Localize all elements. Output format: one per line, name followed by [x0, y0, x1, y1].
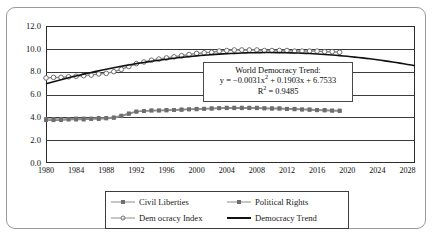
- data-point-marker: [225, 106, 229, 110]
- data-point-marker: [96, 72, 101, 77]
- data-point-marker: [315, 49, 320, 54]
- legend-item[interactable]: Political Rights: [227, 198, 343, 207]
- data-point-marker: [293, 107, 297, 111]
- trendline-equation-annotation: World Democracy Trend: y = −0.0031x2 + 0…: [203, 62, 353, 102]
- data-point-marker: [74, 117, 78, 121]
- data-point-marker: [232, 106, 236, 110]
- x-tick-label: 1992: [128, 167, 144, 175]
- data-point-marker: [44, 76, 49, 81]
- data-point-marker: [239, 48, 244, 53]
- legend-item[interactable]: Democracy Trend: [227, 214, 343, 223]
- data-point-marker: [224, 48, 229, 53]
- x-tick-label: 2012: [279, 167, 295, 175]
- data-point-marker: [255, 48, 260, 53]
- annotation-equation: y = −0.0031x2 + 0.1903x + 6.7533: [208, 76, 348, 86]
- data-point-marker: [217, 49, 222, 54]
- data-point-marker: [52, 117, 56, 121]
- data-point-marker: [195, 107, 199, 111]
- data-point-marker: [180, 108, 184, 112]
- data-point-marker: [142, 109, 146, 113]
- data-point-marker: [51, 75, 56, 80]
- x-tick-label: 1988: [98, 167, 114, 175]
- data-point-marker: [202, 107, 206, 111]
- data-point-marker: [44, 117, 48, 121]
- data-point-marker: [165, 109, 169, 113]
- data-point-marker: [82, 117, 86, 121]
- data-point-marker: [247, 106, 251, 110]
- legend-key-circle-marker-line-icon: [111, 214, 135, 223]
- data-point-marker: [308, 108, 312, 112]
- data-point-marker: [119, 114, 123, 118]
- x-tick-label: 1984: [68, 167, 84, 175]
- x-tick-label: 2008: [249, 167, 265, 175]
- data-point-marker: [157, 109, 161, 113]
- y-tick-label: 8.0: [30, 67, 41, 76]
- data-point-marker: [337, 50, 342, 55]
- legend-item[interactable]: Civil Liberties: [111, 198, 227, 207]
- legend-key-square-marker-line-icon: [111, 198, 135, 207]
- y-tick-label: 4.0: [30, 113, 41, 122]
- legend-item[interactable]: Dem ocracy Index: [111, 214, 227, 223]
- annotation-r-squared: R2 = 0.9485: [208, 87, 348, 97]
- legend-label: Political Rights: [255, 198, 308, 207]
- x-tick-label: 1996: [158, 167, 174, 175]
- data-point-marker: [322, 49, 327, 54]
- y-tick-label: 2.0: [30, 136, 41, 145]
- data-point-marker: [111, 69, 116, 74]
- x-tick-label: 2000: [189, 167, 205, 175]
- data-point-marker: [330, 109, 334, 113]
- x-tick-label: 2016: [309, 167, 325, 175]
- x-tick-label: 2024: [369, 167, 385, 175]
- data-point-marker: [59, 117, 63, 121]
- data-point-marker: [104, 71, 109, 76]
- legend-label: Dem ocracy Index: [139, 214, 202, 223]
- annotation-title: World Democracy Trend:: [208, 66, 348, 76]
- data-point-marker: [240, 106, 244, 110]
- data-point-marker: [330, 49, 335, 54]
- data-point-marker: [262, 107, 266, 111]
- x-tick-label: 2020: [339, 167, 355, 175]
- data-point-marker: [210, 107, 214, 111]
- data-point-marker: [187, 107, 191, 111]
- data-point-marker: [67, 117, 71, 121]
- y-tick-label: 6.0: [30, 90, 41, 99]
- data-point-marker: [315, 108, 319, 112]
- x-tick-label: 1980: [38, 167, 54, 175]
- legend-label: Civil Liberties: [139, 198, 189, 207]
- data-point-marker: [127, 111, 131, 115]
- x-tick-label: 2028: [399, 167, 415, 175]
- data-point-marker: [285, 107, 289, 111]
- data-point-marker: [104, 116, 108, 120]
- data-point-marker: [172, 108, 176, 112]
- data-point-marker: [338, 109, 342, 113]
- data-point-marker: [112, 115, 116, 119]
- data-point-marker: [300, 108, 304, 112]
- data-point-marker: [278, 107, 282, 111]
- legend-key-solid-line-icon: [227, 214, 251, 223]
- data-point-marker: [134, 110, 138, 114]
- x-tick-label: 2004: [219, 167, 235, 175]
- y-tick-label: 10.0: [26, 45, 41, 54]
- data-point-marker: [255, 106, 259, 110]
- data-point-marker: [89, 117, 93, 121]
- data-point-marker: [247, 48, 252, 53]
- data-point-marker: [119, 67, 124, 72]
- data-point-marker: [150, 109, 154, 113]
- data-point-marker: [270, 107, 274, 111]
- chart-legend: Civil LibertiesPolitical RightsDem ocrac…: [105, 191, 349, 229]
- figure-container: 0.02.04.06.08.010.012.0 1980198419881992…: [6, 7, 426, 229]
- data-point-marker: [232, 48, 237, 53]
- legend-key-square-marker-line-icon: [227, 198, 251, 207]
- data-point-marker: [97, 116, 101, 120]
- legend-label: Democracy Trend: [255, 214, 317, 223]
- y-tick-label: 12.0: [26, 22, 41, 31]
- data-point-marker: [217, 106, 221, 110]
- data-point-marker: [323, 109, 327, 113]
